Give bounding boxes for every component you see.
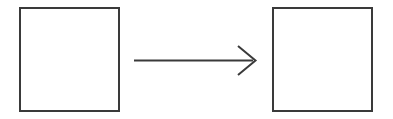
source-square[interactable] <box>20 8 119 111</box>
target-square[interactable] <box>273 8 372 111</box>
diagram-svg <box>0 0 393 119</box>
diagram-canvas <box>0 0 393 119</box>
